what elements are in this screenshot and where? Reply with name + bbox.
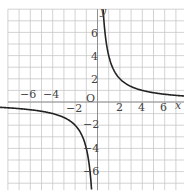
y-axis-label: y (99, 5, 107, 18)
x-axis-label: x (175, 99, 182, 112)
y-tick-neg6: −6 (83, 165, 99, 178)
curve-branch-positive (103, 9, 184, 96)
x-tick-4: 4 (138, 101, 145, 114)
x-tick-2: 2 (116, 101, 123, 114)
origin-label: O (86, 92, 95, 105)
y-tick-6: 6 (91, 27, 98, 40)
x-tick-neg6: −6 (20, 88, 36, 101)
y-tick-neg4: −4 (83, 142, 99, 155)
x-tick-neg2: −2 (66, 102, 82, 115)
x-tick-6: 6 (160, 101, 167, 114)
y-tick-4: 4 (91, 50, 98, 63)
hyperbola-graph: y x O 6 4 2 −2 −4 −6 −6 −4 −2 2 4 6 (0, 0, 184, 196)
x-tick-neg4: −4 (43, 88, 59, 101)
y-tick-neg2: −2 (83, 118, 99, 131)
y-tick-2: 2 (91, 73, 98, 86)
